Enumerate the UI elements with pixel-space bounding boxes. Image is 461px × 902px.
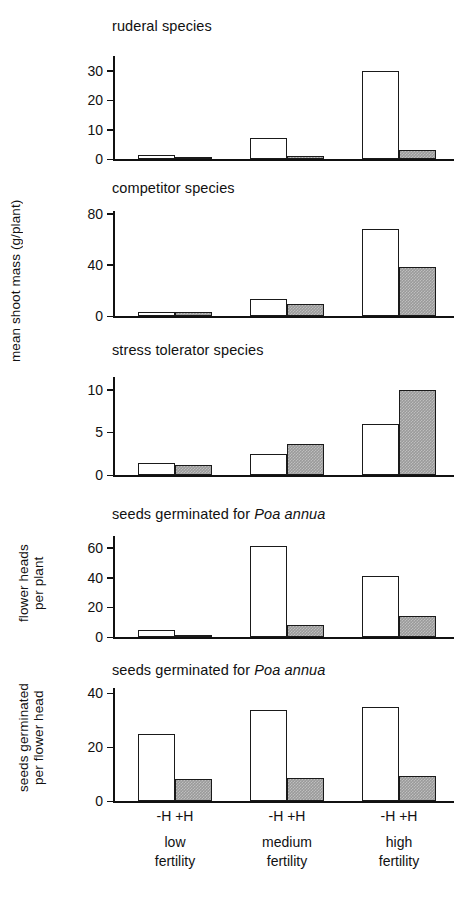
treatment-labels-group-1: -H +H [244,808,330,824]
y-axis-tick [107,475,113,477]
y-axis-line [113,377,115,475]
y-axis-tick-label: 5 [61,424,103,440]
bar-minus-h [250,710,287,801]
y-axis-tick [107,607,113,609]
bar-plus-h [287,625,324,637]
y-axis-tick [107,747,113,749]
bar-minus-h [138,312,175,316]
x-axis-line [113,801,454,803]
bar-plus-h [399,267,436,316]
x-axis-line [113,637,454,639]
category-label-line: fertility [114,852,236,871]
bar-plus-h [399,616,436,637]
plot-area-ruderal: 0102030 [113,56,454,159]
y-axis-tick-label: 10 [61,122,103,138]
bar-plus-h [175,465,212,475]
bar-minus-h [138,734,175,801]
y-axis-line [113,211,115,316]
y-axis-line [113,688,115,801]
x-axis-line [113,159,454,161]
y-axis-tick-label: 0 [61,151,103,167]
bar-plus-h [287,444,324,475]
y-axis-tick-label: 60 [61,540,103,556]
bar-plus-h [175,312,212,316]
panel-title-text-4: seeds germinated for [112,506,254,522]
panel-title-ruderal: ruderal species [112,18,212,34]
panel-title-text-5: seeds germinated for [112,662,254,678]
treatment-labels-group-0: -H +H [132,808,218,824]
y-axis-tick [107,432,113,434]
y-axis-tick-label: 20 [61,739,103,755]
bar-plus-h [287,778,324,801]
y-axis-tick-label: 0 [61,793,103,809]
y-axis-tick [107,100,113,102]
x-axis-line [113,475,454,477]
treatment-labels-group-2: -H +H [356,808,442,824]
y-axis-tick-label: 0 [61,629,103,645]
bar-plus-h [175,157,212,159]
y-axis-line [113,56,115,159]
category-label-line: low [114,833,236,852]
bar-plus-h [399,776,436,801]
bar-plus-h [287,156,324,159]
panel-title-species-4: Poa annua [254,506,325,522]
panel-title-poa-annua-per-head: seeds germinated for Poa annua [112,662,325,678]
y-axis-line [113,536,115,637]
bar-minus-h [138,155,175,159]
y-axis-tick [107,213,113,215]
y-axis-tick [107,637,113,639]
plot-area-stress-tolerator: 0510 [113,377,454,475]
panel-title-poa-annua-flower-heads: seeds germinated for Poa annua [112,506,325,522]
bar-minus-h [250,299,287,316]
category-label-1: mediumfertility [226,833,348,871]
bar-plus-h [287,304,324,316]
bar-minus-h [362,71,399,159]
bar-plus-h [175,635,212,637]
bar-minus-h [250,546,287,637]
axis-title-flower-heads: flower heads per plant [16,528,50,638]
axis-title-shoot-mass: mean shoot mass (g/plant) [8,116,26,446]
y-axis-tick [107,70,113,72]
x-axis-line [113,316,454,318]
category-label-line: fertility [338,852,460,871]
bar-plus-h [175,779,212,801]
bar-minus-h [138,463,175,475]
y-axis-tick-label: 20 [61,92,103,108]
y-axis-tick [107,264,113,266]
panel-title-species-5: Poa annua [254,662,325,678]
y-axis-tick-label: 10 [61,382,103,398]
y-axis-tick-label: 30 [61,63,103,79]
bar-minus-h [362,424,399,475]
plot-area-per-flower-head: 02040 [113,688,454,801]
category-label-line: high [338,833,460,852]
y-axis-tick-label: 0 [61,308,103,324]
bar-minus-h [362,576,399,637]
panel-title-competitor: competitor species [112,180,235,196]
y-axis-tick-label: 40 [61,257,103,273]
y-axis-tick [107,547,113,549]
category-label-line: medium [226,833,348,852]
bar-minus-h [362,707,399,801]
bar-minus-h [250,454,287,475]
y-axis-tick [107,801,113,803]
y-axis-tick [107,159,113,161]
bar-minus-h [138,630,175,637]
bar-plus-h [399,150,436,159]
y-axis-tick [107,693,113,695]
category-label-line: fertility [226,852,348,871]
y-axis-tick [107,316,113,318]
bar-minus-h [362,229,399,316]
panel-title-stress-tolerator: stress tolerator species [112,342,264,358]
axis-title-seeds-germinated: seeds germinated per flower head [16,668,50,808]
y-axis-tick-label: 20 [61,599,103,615]
plot-area-flower-heads: 0204060 [113,536,454,637]
y-axis-tick [107,389,113,391]
category-label-0: lowfertility [114,833,236,871]
y-axis-tick-label: 40 [61,685,103,701]
y-axis-tick-label: 80 [61,206,103,222]
bar-minus-h [250,138,287,159]
figure-root: mean shoot mass (g/plant) flower heads p… [0,0,461,902]
plot-area-competitor: 04080 [113,211,454,316]
y-axis-tick [107,129,113,131]
y-axis-tick-label: 0 [61,467,103,483]
